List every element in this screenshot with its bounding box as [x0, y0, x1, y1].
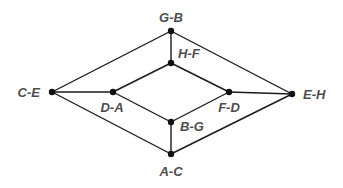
node-f-d: [226, 89, 232, 95]
node-label-g-b: G-B: [159, 10, 183, 25]
graph-diagram: G-BH-FC-ED-AF-DE-HB-GA-C: [0, 0, 343, 188]
node-b-g: [168, 119, 174, 125]
node-label-a-c: A-C: [158, 164, 183, 179]
node-label-h-f: H-F: [178, 46, 201, 61]
node-label-c-e: C-E: [18, 85, 41, 100]
node-label-f-d: F-D: [218, 100, 240, 115]
node-label-d-a: D-A: [100, 100, 123, 115]
node-d-a: [110, 89, 116, 95]
edge-h-f-to-f-d: [171, 63, 229, 92]
edge-g-b-to-e-h: [171, 31, 292, 94]
edge-f-d-to-e-h: [229, 92, 292, 94]
node-c-e: [49, 89, 55, 95]
node-h-f: [168, 60, 174, 66]
node-label-e-h: E-H: [303, 87, 326, 102]
edge-h-f-to-d-a: [113, 63, 171, 92]
edge-g-b-to-c-e: [52, 31, 171, 92]
edges-group: [52, 31, 292, 154]
node-label-b-g: B-G: [180, 119, 204, 134]
node-g-b: [168, 28, 174, 34]
node-e-h: [289, 91, 295, 97]
node-a-c: [168, 151, 174, 157]
